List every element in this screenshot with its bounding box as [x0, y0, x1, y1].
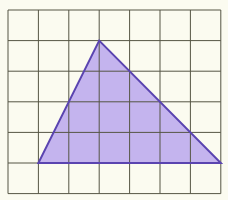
grid-diagram: [0, 0, 228, 200]
